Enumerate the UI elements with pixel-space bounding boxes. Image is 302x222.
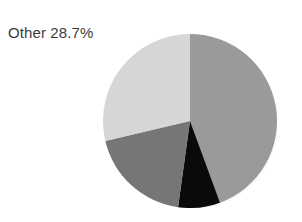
pie-chart-figure: Other 28.7%	[0, 0, 302, 222]
pie-chart-graphic	[103, 34, 277, 208]
other-slice-label: Other 28.7%	[8, 24, 93, 42]
pie-svg	[103, 34, 277, 208]
pie-slice-group	[103, 34, 277, 208]
